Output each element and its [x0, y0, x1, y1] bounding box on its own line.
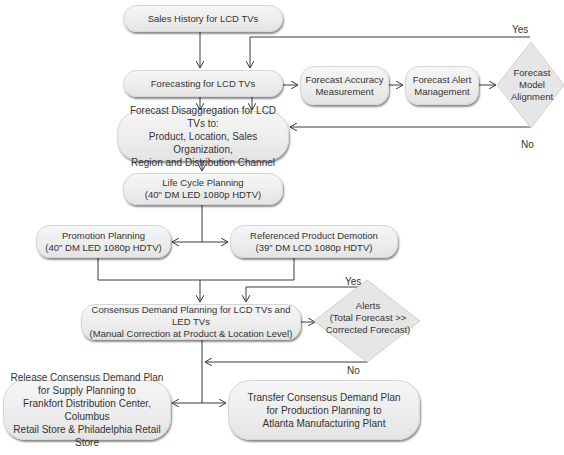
edge-merge-promotion-referenced: [98, 258, 294, 280]
flowchart-canvas: Sales History for LCD TVs Forecasting fo…: [0, 0, 564, 455]
label-alerts-no: No: [347, 365, 360, 376]
node-forecast-disaggregation: Forecast Disaggregation for LCD TVs to: …: [117, 111, 289, 161]
node-sales-history: Sales History for LCD TVs: [123, 5, 283, 32]
label-model-alignment-no: No: [521, 139, 534, 150]
label-alerts-yes: Yes: [345, 276, 361, 287]
label-model-alignment-yes: Yes: [512, 24, 528, 35]
node-forecast-model-alignment: Forecast Model Alignment: [503, 60, 561, 110]
node-referenced-product-demotion: Referenced Product Demotion (39" DM LCD …: [230, 225, 398, 258]
node-consensus-demand-planning: Consensus Demand Planning for LCD TVs an…: [81, 304, 301, 340]
node-release-consensus: Release Consensus Demand Plan for Supply…: [3, 380, 171, 440]
node-forecast-accuracy: Forecast Accuracy Measurement: [300, 66, 389, 105]
node-promotion-planning: Promotion Planning (40" DM LED 1080p HDT…: [36, 225, 171, 258]
node-forecasting: Forecasting for LCD TVs: [123, 70, 283, 97]
node-transfer-consensus: Transfer Consensus Demand Plan for Produ…: [228, 380, 420, 440]
edge-model-alignment-yes: [250, 37, 530, 68]
node-forecast-alert: Forecast Alert Management: [405, 66, 479, 105]
node-life-cycle-planning: Life Cycle Planning (40" DM LED 1080p HD…: [123, 173, 283, 205]
node-alerts: Alerts (Total Forecast >> Corrected Fore…: [322, 295, 414, 341]
